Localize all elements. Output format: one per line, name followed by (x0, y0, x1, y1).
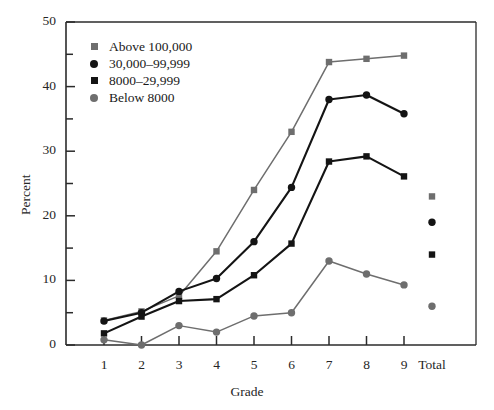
data-point-marker (288, 309, 295, 316)
data-point-marker (363, 91, 370, 98)
data-point-marker (363, 56, 369, 62)
x-axis-tick-label: 6 (272, 357, 312, 373)
data-point-marker (213, 248, 219, 254)
data-point-marker (100, 336, 107, 343)
data-point-marker (400, 281, 407, 288)
x-axis-tick-label: 7 (309, 357, 349, 373)
chart-series (101, 153, 435, 336)
data-point-marker (250, 312, 257, 319)
x-axis-title: Grade (0, 384, 494, 400)
data-point-marker (326, 158, 332, 164)
y-axis-tick-label: 50 (20, 13, 56, 29)
y-axis-tick-label: 40 (20, 78, 56, 94)
data-point-marker (175, 322, 182, 329)
legend-circle-icon (86, 60, 102, 68)
y-axis-tick-label: 20 (20, 207, 56, 223)
x-axis-tick-label: 5 (234, 357, 274, 373)
x-axis-tick-label: 1 (84, 357, 124, 373)
data-point-marker (100, 317, 107, 324)
x-axis-total-label: Total (407, 357, 457, 373)
data-point-marker (213, 275, 220, 282)
data-point-marker (326, 59, 332, 65)
data-point-marker (176, 298, 182, 304)
data-point-marker (400, 110, 407, 117)
legend-square-icon (86, 43, 102, 50)
x-axis-tick-label: 8 (347, 357, 387, 373)
data-point-marker (251, 272, 257, 278)
legend-item-label: Below 8000 (109, 90, 175, 106)
y-axis-tick-label: 30 (20, 142, 56, 158)
y-axis-tick-label: 10 (20, 271, 56, 287)
series-line (104, 95, 404, 321)
legend-circle-icon (86, 94, 102, 102)
x-axis-tick-label: 4 (197, 357, 237, 373)
legend-marker-swatch (91, 77, 98, 84)
legend-item-label: 8000–29,999 (109, 73, 180, 89)
chart-series (100, 91, 435, 324)
chart-legend: Above 100,00030,000–99,9998000–29,999Bel… (86, 38, 192, 106)
data-point-marker (213, 296, 219, 302)
legend-item-label: Above 100,000 (109, 39, 192, 55)
data-point-marker (175, 288, 182, 295)
data-point-marker (363, 270, 370, 277)
data-point-marker (213, 328, 220, 335)
legend-item: 30,000–99,999 (86, 55, 192, 72)
data-point-marker (325, 257, 332, 264)
legend-marker-swatch (90, 60, 98, 68)
data-point-marker (138, 341, 145, 348)
data-point-marker (363, 153, 369, 159)
data-point-marker (325, 96, 332, 103)
data-point-marker (401, 173, 407, 179)
chart-series (100, 257, 435, 348)
data-point-marker (138, 313, 144, 319)
legend-item: Above 100,000 (86, 38, 192, 55)
legend-square-icon (86, 77, 102, 84)
data-point-marker (401, 52, 407, 58)
data-point-marker (288, 240, 294, 246)
x-axis-tick-label: 2 (122, 357, 162, 373)
chart-figure: Percent Grade Above 100,00030,000–99,999… (0, 0, 494, 410)
legend-item: Below 8000 (86, 89, 192, 106)
legend-item-label: 30,000–99,999 (109, 56, 190, 72)
legend-item: 8000–29,999 (86, 72, 192, 89)
legend-marker-swatch (90, 94, 98, 102)
data-point-marker (429, 193, 435, 199)
data-point-marker (429, 251, 435, 257)
x-axis-tick-label: 3 (159, 357, 199, 373)
chart-plot-area (0, 0, 494, 410)
data-point-marker (288, 184, 295, 191)
data-point-marker (251, 187, 257, 193)
data-point-marker (288, 129, 294, 135)
y-axis-tick-label: 0 (20, 336, 56, 352)
data-point-marker (428, 219, 435, 226)
data-point-marker (101, 330, 107, 336)
legend-marker-swatch (91, 43, 98, 50)
data-point-marker (428, 303, 435, 310)
data-point-marker (250, 238, 257, 245)
